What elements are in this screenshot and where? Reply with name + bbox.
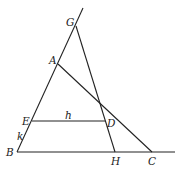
geometry-diagram: G A E D B H C h k [0,0,189,172]
point-label-B: B [5,146,14,158]
line-BG-extended [17,8,83,152]
segment-label-k: k [17,130,23,142]
point-label-A: A [48,54,57,66]
point-label-D: D [106,117,116,129]
point-label-H: H [110,155,121,167]
point-label-C: C [148,155,156,167]
segment-AC [58,64,152,152]
point-label-E: E [21,115,30,127]
segment-label-h: h [65,109,72,121]
point-label-G: G [66,16,74,28]
segment-GH [76,26,115,152]
